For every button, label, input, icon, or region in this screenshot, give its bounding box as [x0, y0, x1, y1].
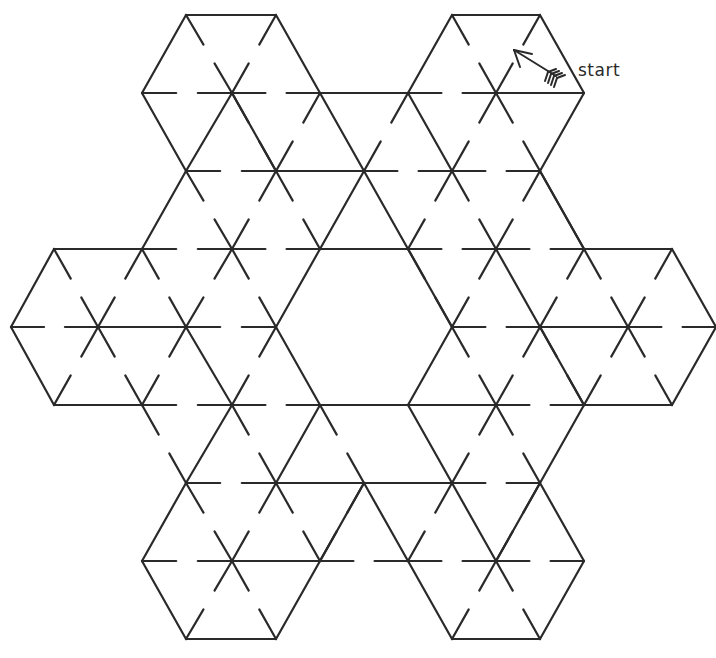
solid-wall	[408, 405, 452, 483]
maze-diagram	[0, 0, 716, 658]
solid-wall	[540, 405, 584, 483]
solid-wall	[186, 93, 232, 171]
wall-stub	[142, 405, 159, 435]
wall-stub	[232, 531, 249, 561]
wall-stub	[496, 375, 513, 405]
start-arrow-icon	[514, 50, 565, 87]
wall-stub	[479, 405, 496, 435]
wall-stub	[186, 483, 203, 513]
wall-stub	[452, 297, 469, 327]
wall-stub	[232, 375, 249, 405]
wall-stub	[232, 93, 249, 123]
wall-stub	[259, 327, 276, 357]
solid-wall	[142, 15, 186, 93]
solid-wall	[320, 171, 364, 249]
wall-stub	[479, 249, 496, 279]
wall-stub	[523, 483, 540, 513]
solid-wall	[540, 93, 584, 171]
solid-wall	[11, 249, 54, 327]
wall-stub	[303, 219, 320, 249]
wall-stub	[303, 531, 320, 561]
wall-stub	[567, 375, 584, 405]
solid-wall	[276, 15, 320, 93]
wall-stub	[142, 249, 159, 279]
wall-stub	[276, 171, 293, 201]
wall-stub	[496, 405, 513, 435]
solid-wall	[276, 327, 320, 405]
wall-stub	[259, 483, 276, 513]
wall-stub	[479, 93, 496, 123]
solid-wall	[142, 483, 186, 561]
wall-stub	[611, 297, 628, 327]
solid-wall	[186, 405, 232, 483]
wall-stub	[232, 219, 249, 249]
wall-stub	[391, 93, 408, 123]
wall-stub	[452, 171, 469, 201]
solid-wall	[452, 483, 496, 561]
maze-walls	[11, 15, 716, 639]
wall-stub	[54, 375, 71, 405]
wall-stub	[259, 453, 276, 483]
wall-stub	[186, 609, 203, 639]
wall-stub	[303, 93, 320, 123]
wall-stub	[259, 141, 276, 171]
wall-stub	[186, 15, 203, 45]
solid-wall	[276, 405, 320, 483]
wall-stub	[523, 15, 540, 45]
wall-stub	[232, 249, 249, 279]
wall-stub	[259, 297, 276, 327]
wall-stub	[259, 609, 276, 639]
solid-wall	[320, 93, 364, 171]
wall-stub	[81, 327, 98, 357]
solid-wall	[11, 327, 54, 405]
wall-stub	[452, 141, 469, 171]
solid-wall	[672, 327, 716, 405]
wall-stub	[584, 375, 601, 405]
wall-stub	[320, 405, 337, 435]
wall-stub	[611, 327, 628, 357]
wall-stub	[276, 141, 293, 171]
solid-wall	[408, 15, 452, 93]
wall-stub	[479, 63, 496, 93]
wall-stub	[276, 483, 293, 513]
wall-stub	[215, 63, 232, 93]
wall-stub	[259, 15, 276, 45]
wall-stub	[655, 249, 672, 279]
wall-stub	[567, 249, 584, 279]
solid-wall	[186, 327, 232, 405]
solid-wall	[408, 327, 452, 405]
wall-stub	[628, 327, 645, 357]
wall-stub	[435, 297, 452, 327]
wall-stub	[523, 609, 540, 639]
solid-wall	[408, 561, 452, 639]
wall-stub	[215, 249, 232, 279]
solid-wall	[540, 483, 584, 561]
wall-stub	[186, 297, 203, 327]
wall-stub	[479, 375, 496, 405]
wall-stub	[215, 219, 232, 249]
solid-wall	[364, 483, 408, 561]
wall-stub	[496, 561, 513, 591]
wall-stub	[215, 561, 232, 591]
wall-stub	[364, 141, 381, 171]
wall-stub	[584, 249, 601, 279]
wall-stub	[347, 453, 364, 483]
wall-stub	[496, 93, 513, 123]
solid-wall	[142, 171, 186, 249]
wall-stub	[125, 249, 142, 279]
solid-wall	[408, 93, 452, 171]
solid-wall	[276, 249, 320, 327]
wall-stub	[98, 327, 115, 357]
wall-stub	[98, 297, 115, 327]
wall-stub	[232, 63, 249, 93]
solid-wall	[142, 93, 186, 171]
wall-stub	[435, 171, 452, 201]
solid-wall	[540, 561, 584, 639]
wall-stub	[54, 249, 71, 279]
wall-stub	[125, 375, 142, 405]
solid-wall	[540, 15, 584, 93]
wall-stub	[496, 219, 513, 249]
wall-stub	[628, 297, 645, 327]
wall-stub	[496, 531, 513, 561]
wall-stub	[232, 561, 249, 591]
